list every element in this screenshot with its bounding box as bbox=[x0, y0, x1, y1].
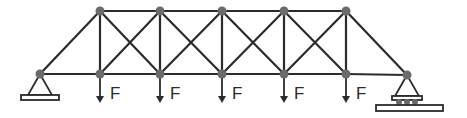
truss-joint bbox=[403, 71, 412, 80]
truss-joint bbox=[156, 7, 165, 16]
truss-joint bbox=[342, 70, 351, 79]
roller-support-right bbox=[376, 75, 443, 111]
load-label: F bbox=[294, 84, 304, 103]
arrow-down-icon bbox=[156, 96, 164, 103]
truss-joint bbox=[96, 7, 105, 16]
arrow-down-icon bbox=[342, 96, 350, 103]
end-diagonal-member bbox=[40, 11, 100, 74]
load-label: F bbox=[232, 84, 242, 103]
truss-joint bbox=[218, 7, 227, 16]
load-label: F bbox=[170, 84, 180, 103]
truss-joint bbox=[280, 7, 289, 16]
truss-nodes bbox=[36, 7, 412, 80]
load-arrows: FFFFF bbox=[96, 74, 366, 103]
truss-joint bbox=[156, 70, 165, 79]
truss-joint bbox=[218, 70, 227, 79]
truss-joint bbox=[280, 70, 289, 79]
end-diagonal-member bbox=[346, 11, 407, 75]
arrow-down-icon bbox=[96, 96, 104, 103]
truss-joint bbox=[96, 70, 105, 79]
truss-members bbox=[40, 11, 407, 75]
truss-joint bbox=[342, 7, 351, 16]
bottom-chord-member bbox=[346, 74, 407, 75]
arrow-down-icon bbox=[280, 96, 288, 103]
load-label: F bbox=[110, 84, 120, 103]
load-label: F bbox=[356, 84, 366, 103]
arrow-down-icon bbox=[218, 96, 226, 103]
truss-diagram: FFFFF bbox=[0, 0, 467, 118]
truss-joint bbox=[36, 70, 45, 79]
